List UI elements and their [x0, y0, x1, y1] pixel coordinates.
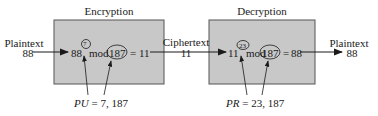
dec-exponent: 23 — [239, 40, 246, 52]
private-key-label: PR = 23, 187 — [226, 98, 284, 109]
dec-result: 88 — [291, 47, 302, 59]
pu-symbol: PU — [74, 97, 89, 109]
public-key-label: PU = 7, 187 — [74, 98, 128, 109]
enc-base: 88 — [71, 47, 82, 59]
pr-equals: = — [242, 97, 248, 109]
encryption-title: Encryption — [54, 6, 164, 17]
ciphertext-value: 11 — [172, 48, 200, 59]
dec-modulus: 187 — [262, 47, 279, 59]
pu-value: 7, 187 — [100, 97, 128, 109]
dec-base: 11 — [228, 47, 239, 59]
decryption-title: Decryption — [209, 6, 315, 17]
enc-exponent: 7 — [83, 38, 87, 50]
pr-value: 23, 187 — [251, 97, 284, 109]
enc-equals: = — [130, 47, 136, 59]
enc-mod: mod — [89, 47, 109, 59]
pu-equals: = — [91, 97, 97, 109]
dec-equals: = — [283, 47, 289, 59]
enc-result: 11 — [139, 47, 150, 59]
enc-modulus: 187 — [109, 47, 126, 59]
pr-symbol: PR — [226, 97, 239, 109]
input-value: 88 — [14, 48, 42, 59]
output-value: 88 — [338, 48, 366, 59]
